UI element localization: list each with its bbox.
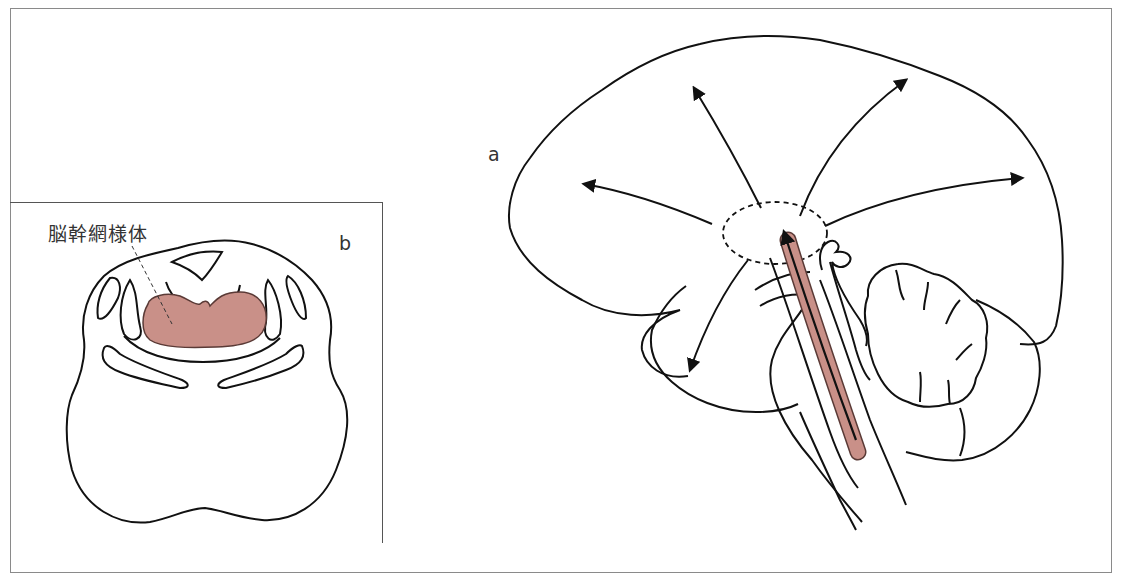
lower-arc-left — [103, 346, 188, 388]
arrow-posterior — [825, 178, 1022, 226]
cerebellum-lower-inner — [960, 408, 965, 456]
tectum — [820, 241, 867, 346]
arrow-inferior-anterior — [690, 260, 748, 370]
cerebrum-outline — [509, 36, 1063, 377]
left-lateral-lobe-inner — [121, 280, 141, 340]
arrow-anterior — [584, 184, 712, 224]
figure-canvas — [0, 0, 1122, 588]
left-lateral-lobe-outer — [98, 278, 120, 319]
thalamus-region — [723, 202, 827, 264]
brainstem-line-1 — [770, 258, 858, 488]
panel-b-label: b — [339, 232, 351, 254]
projection-arrows — [584, 80, 1022, 370]
arrow-superior-posterior — [800, 80, 906, 216]
panel-a-label: a — [488, 143, 500, 165]
right-lateral-lobe-outer — [286, 276, 306, 319]
arrow-anterior-superior — [694, 88, 761, 208]
cerebellum-lower — [906, 300, 1040, 460]
reticular-formation-annotation: 脳幹網様体 — [48, 219, 148, 246]
right-lateral-lobe-inner — [265, 280, 281, 340]
cerebellum-fold-5 — [920, 372, 921, 402]
sagittal-brain — [509, 36, 1063, 530]
cerebellum-outline — [865, 264, 987, 407]
cerebellum-fold-2 — [924, 282, 928, 310]
pons-cross-section — [67, 241, 348, 523]
cerebellum-fold-3 — [946, 300, 960, 324]
cerebellum-fold-4 — [956, 344, 972, 360]
reticular-formation-b — [143, 292, 266, 347]
fourth-ventricle — [172, 252, 222, 280]
cerebellum-fold-6 — [948, 380, 950, 404]
pons-outline — [67, 241, 348, 523]
cerebellum-fold-1 — [896, 270, 904, 300]
